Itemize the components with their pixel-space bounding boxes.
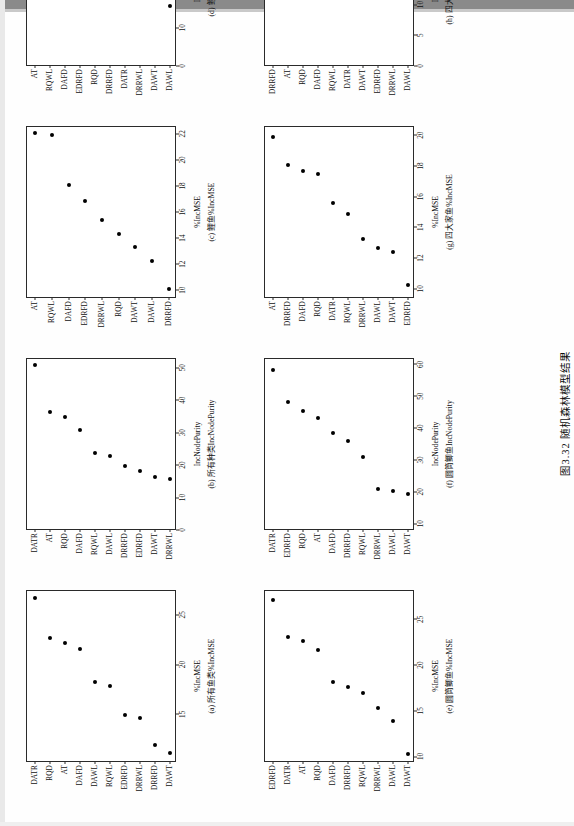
x-axis-c: 10121416182022 [176, 126, 192, 298]
category-label: AT [31, 301, 39, 310]
category-label: AT [299, 765, 307, 774]
x-axis-e: 10152025 [414, 590, 430, 762]
x-axis-title-e: %IncMSE [431, 590, 440, 762]
category-label: DRRFD [106, 69, 114, 94]
panel-caption-g: (g) 四大家鱼%IncMSE [443, 126, 454, 298]
figure-random-forest-results: DATRRQDATDAFDDAWLRQWLEDRFDDRRWLDRRFDDAWT… [0, 0, 574, 826]
category-label: DAFD [61, 69, 69, 89]
data-point [33, 363, 37, 367]
category-label: RQD [314, 765, 322, 781]
x-tick-label: 10 [179, 287, 187, 294]
data-point [301, 169, 305, 173]
category-label: DRRWL [166, 533, 174, 560]
category-label: RQD [299, 533, 307, 549]
category-label: DRRFD [269, 69, 277, 94]
data-point [168, 751, 172, 755]
x-axis-b: 01020304050 [176, 358, 192, 530]
data-point [138, 716, 142, 720]
x-axis-title-f: IncNodePurity [431, 358, 440, 530]
category-label: DATR [284, 765, 292, 785]
category-label: RQD [46, 765, 54, 781]
x-tick-label: 20 [417, 488, 425, 495]
x-tick-label: 25 [179, 611, 187, 618]
category-label: DRRFD [151, 765, 159, 790]
data-point [123, 713, 127, 717]
category-axis-c: ATRQWLDAFDEDRFDDRRWLRQDDAWTDAWLDRRFD [27, 297, 175, 343]
category-label: AT [269, 301, 277, 310]
category-label: DAFD [329, 533, 337, 553]
category-label: DAWL [389, 765, 397, 787]
data-point [123, 464, 127, 468]
category-label: RQD [115, 301, 123, 317]
category-label: DAFD [76, 533, 84, 553]
data-point [286, 635, 290, 639]
category-label: DAWL [166, 69, 174, 91]
data-point [331, 201, 335, 205]
x-tick-label: 20 [179, 462, 187, 469]
data-point [376, 246, 380, 250]
category-axis-f: DATREDRFDRQDATDAFDDRRFDRQWLDRRWLDAWLDAWT [265, 529, 413, 575]
category-label: DATR [269, 533, 277, 553]
x-tick-label: 20 [417, 132, 425, 139]
data-point [406, 283, 410, 287]
data-point [168, 4, 172, 8]
x-tick-label: 30 [417, 456, 425, 463]
x-tick-label: 25 [417, 616, 425, 623]
x-axis-h: 0510152025 [414, 0, 430, 66]
data-point [153, 743, 157, 747]
x-axis-g: 101214161820 [414, 126, 430, 298]
category-label: AT [46, 533, 54, 542]
x-tick-label: 12 [417, 254, 425, 261]
data-point [78, 647, 82, 651]
category-label: RQD [91, 69, 99, 85]
x-tick-label: 30 [179, 429, 187, 436]
panel-c: ATRQWLDAFDEDRFDDRRWLRQDDAWTDAWLDRRFD1012… [26, 126, 258, 344]
data-point [83, 199, 87, 203]
plot-area-f: DATREDRFDRQDATDAFDDRRFDRQWLDRRWLDAWLDAWT [264, 358, 414, 530]
category-label: DRRWL [359, 301, 367, 328]
data-point [406, 752, 410, 756]
category-label: DAWL [404, 69, 412, 91]
x-axis-title-h: IncNodePurity [431, 0, 440, 66]
data-point [100, 218, 104, 222]
panel-caption-e: (e) 圆筒鲫鱼%IncMSE [443, 590, 454, 762]
category-label: DRRWL [389, 69, 397, 96]
category-label: AT [284, 69, 292, 78]
panel-caption-f: (f) 圆筒鲫鱼IncNodePurity [443, 358, 454, 530]
data-point [117, 232, 121, 236]
panel-grid: DATRRQDATDAFDDAWLRQWLEDRFDDRRWLDRRFDDAWT… [26, 18, 496, 808]
data-point [138, 469, 142, 473]
x-tick-label: 10 [417, 753, 425, 760]
data-point [361, 691, 365, 695]
category-label: EDRFD [121, 765, 129, 790]
category-label: DAFD [65, 301, 73, 321]
category-label: DAWL [374, 301, 382, 323]
data-point [50, 133, 54, 137]
x-tick-label: 18 [417, 162, 425, 169]
panel-caption-b: (b) 所有种类IncNodePurity [205, 358, 216, 530]
category-label: EDRFD [284, 533, 292, 558]
x-tick-label: 40 [417, 424, 425, 431]
data-point [48, 410, 52, 414]
panel-h: DRRFDATRQDDAFDRQWLDATRDAWTEDRFDDRRWLDAWL… [264, 0, 496, 112]
x-axis-title-d: IncNodePurity [193, 0, 202, 66]
category-label: DRRFD [344, 533, 352, 558]
figure-caption: 图3.32 随机森林模型结果 [557, 0, 572, 826]
x-tick-label: 14 [179, 234, 187, 241]
category-label: DRRFD [344, 765, 352, 790]
plot-area-b: DATRATRQDDAFDRQWLDAWLDRRFDEDRFDDAWTDRRWL [26, 358, 176, 530]
category-axis-e: EDRFDDATRATRQDDAFDDRRFDRQWLDRRWLDAWLDAWT [265, 761, 413, 807]
category-label: DAWL [389, 533, 397, 555]
category-label: DATR [344, 69, 352, 89]
x-tick-label: 10 [417, 285, 425, 292]
category-label: DAFD [299, 301, 307, 321]
x-tick-label: 5 [417, 34, 425, 38]
data-point [93, 451, 97, 455]
x-tick-label: 15 [417, 707, 425, 714]
panel-d: ATRQWLDAFDEDRFDRQDDRRFDDATRDRRWLDAWTDAWL… [26, 0, 258, 112]
category-label: DAWT [166, 765, 174, 787]
category-label: RQWL [359, 765, 367, 787]
category-label: EDRFD [404, 301, 412, 326]
x-tick-label: 18 [179, 182, 187, 189]
category-label: DAFD [329, 765, 337, 785]
